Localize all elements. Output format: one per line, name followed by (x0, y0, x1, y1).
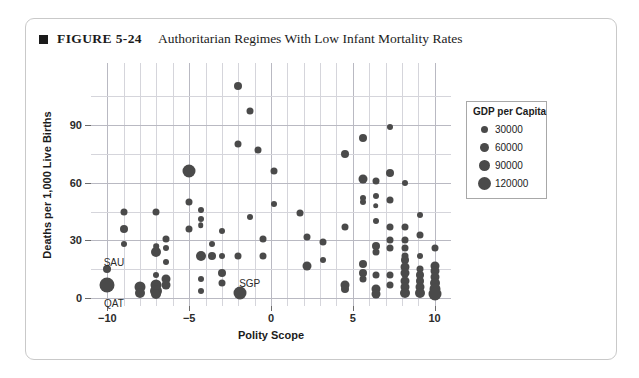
data-point[interactable] (135, 288, 145, 298)
data-point[interactable] (386, 169, 394, 177)
data-point[interactable] (387, 237, 394, 244)
data-point[interactable] (431, 245, 438, 252)
data-point[interactable] (208, 252, 216, 260)
data-point[interactable] (373, 218, 379, 224)
data-point[interactable] (359, 260, 367, 268)
data-point[interactable] (153, 272, 159, 278)
data-point[interactable] (121, 241, 127, 247)
data-point[interactable] (163, 235, 170, 242)
data-point[interactable] (183, 165, 196, 178)
data-point[interactable] (198, 288, 204, 294)
data-point[interactable] (271, 168, 278, 175)
data-point[interactable] (186, 225, 193, 232)
data-point[interactable] (417, 253, 423, 259)
data-point[interactable] (297, 210, 304, 217)
data-point[interactable] (387, 223, 394, 230)
x-axis-tick-label: −10 (98, 312, 117, 324)
legend-item[interactable]: 30000 (473, 120, 540, 138)
data-point[interactable] (196, 251, 206, 261)
legend-item[interactable]: 90000 (473, 156, 540, 174)
data-point[interactable] (259, 252, 266, 259)
data-point[interactable] (259, 235, 266, 242)
data-point[interactable] (341, 150, 349, 158)
data-point[interactable] (358, 174, 367, 183)
data-point[interactable] (387, 124, 393, 130)
data-point[interactable] (218, 279, 225, 286)
data-point[interactable] (341, 223, 348, 230)
gridline-horizontal (91, 96, 451, 97)
gridline-horizontal (91, 183, 451, 184)
plot-area: 0306090−10−50510SAUQATSGP (91, 63, 451, 306)
data-point[interactable] (415, 288, 425, 298)
data-point[interactable] (387, 196, 394, 203)
data-point[interactable] (387, 281, 394, 288)
y-axis-tick-label: 90 (70, 119, 82, 131)
legend-bubble-icon (481, 126, 488, 133)
data-point[interactable] (154, 243, 160, 249)
data-point[interactable] (303, 261, 312, 270)
data-point[interactable] (271, 201, 277, 207)
data-point[interactable] (151, 289, 161, 299)
legend-rows: 300006000090000120000 (473, 120, 540, 192)
data-point[interactable] (304, 233, 311, 240)
data-point[interactable] (254, 146, 261, 153)
data-point[interactable] (372, 177, 379, 184)
data-point[interactable] (373, 193, 379, 199)
data-point[interactable] (219, 228, 225, 234)
gridline-horizontal (91, 269, 451, 270)
gridline-horizontal (91, 298, 451, 299)
data-point[interactable] (234, 82, 242, 90)
x-axis-tick-label: −5 (183, 312, 196, 324)
y-axis-tick-mark (85, 298, 91, 299)
data-point[interactable] (162, 280, 171, 289)
data-point[interactable] (120, 208, 127, 215)
legend-item[interactable]: 120000 (473, 174, 540, 192)
data-point[interactable] (235, 252, 242, 259)
data-point[interactable] (320, 239, 327, 246)
data-point[interactable] (416, 231, 423, 238)
data-point[interactable] (400, 288, 410, 298)
data-point[interactable] (198, 276, 204, 282)
data-point[interactable] (341, 285, 349, 293)
data-point[interactable] (359, 276, 366, 283)
data-point[interactable] (247, 214, 253, 220)
x-axis-title: Polity Scope (91, 329, 451, 341)
data-point[interactable] (120, 225, 128, 233)
data-point-annotation-sgp: SGP (239, 277, 260, 288)
data-point[interactable] (387, 245, 394, 252)
data-point[interactable] (360, 199, 366, 205)
data-point[interactable] (372, 249, 379, 256)
data-point[interactable] (373, 203, 379, 209)
data-point[interactable] (219, 253, 225, 259)
x-axis-tick-label: 5 (350, 312, 356, 324)
data-point[interactable] (371, 290, 380, 299)
data-point[interactable] (186, 198, 193, 205)
data-point[interactable] (235, 141, 242, 148)
gridline-horizontal (91, 212, 451, 213)
data-point[interactable] (218, 269, 226, 277)
x-axis-tick-label: 0 (268, 312, 274, 324)
data-point[interactable] (428, 288, 441, 301)
legend-item[interactable]: 60000 (473, 138, 540, 156)
data-point[interactable] (100, 277, 115, 292)
data-point[interactable] (320, 257, 326, 263)
data-point[interactable] (359, 134, 367, 142)
data-point[interactable] (163, 259, 169, 265)
y-axis-tick-mark (85, 125, 91, 126)
data-point[interactable] (402, 237, 409, 244)
data-point[interactable] (153, 208, 160, 215)
data-point[interactable] (246, 108, 253, 115)
data-point[interactable] (209, 241, 215, 247)
data-point[interactable] (163, 245, 169, 251)
data-point[interactable] (402, 180, 408, 186)
data-point[interactable] (402, 223, 409, 230)
data-point[interactable] (417, 212, 423, 218)
x-axis-tick-label: 10 (429, 312, 441, 324)
data-point[interactable] (198, 222, 204, 228)
data-point[interactable] (387, 272, 394, 279)
data-point[interactable] (402, 245, 409, 252)
data-point[interactable] (198, 207, 204, 213)
y-axis-tick-label: 0 (76, 292, 82, 304)
y-axis-title-label: Deaths per 1,000 Live Births (41, 111, 53, 258)
data-point[interactable] (372, 272, 379, 279)
